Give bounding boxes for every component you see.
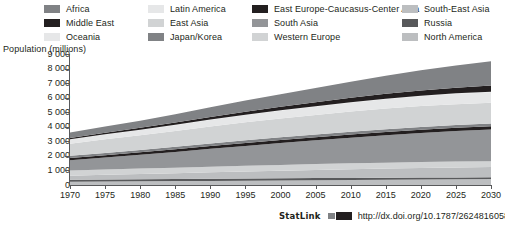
x-tick-label: 2005 xyxy=(306,190,326,200)
y-tick-label: 1 000 xyxy=(8,166,70,175)
legend-item[interactable]: Middle East xyxy=(44,16,114,29)
y-tick: 2 000 xyxy=(0,151,70,160)
x-tick-label: 2010 xyxy=(341,190,361,200)
x-tick-label: 1975 xyxy=(95,190,115,200)
statlink-row: StatLink http://dx.doi.org/10.1787/26248… xyxy=(279,209,505,222)
legend-item-label: East Europe-Caucasus-Center Asia xyxy=(274,4,419,14)
legend-item[interactable]: Latin America xyxy=(148,2,226,15)
legend-column-3: East Europe-Caucasus-Center AsiaSouth As… xyxy=(252,2,419,44)
y-axis-ticks: 01 0002 0003 0004 0005 0006 0007 0008 00… xyxy=(0,54,70,194)
legend-item[interactable]: South-East Asia xyxy=(402,2,490,15)
legend-swatch-icon xyxy=(44,33,60,41)
legend-item-label: South Asia xyxy=(274,18,318,28)
x-tick-label: 2000 xyxy=(270,190,290,200)
legend-swatch-icon xyxy=(402,33,418,41)
legend-swatch-icon xyxy=(402,5,418,13)
x-tick-label: 1990 xyxy=(200,190,220,200)
x-tick-mark xyxy=(105,185,106,189)
stacked-area-svg xyxy=(70,54,491,185)
x-tick-mark xyxy=(245,185,246,189)
y-tick: 6 000 xyxy=(0,93,70,102)
x-axis-ticks: 1970197519801985199019952000200520102015… xyxy=(0,185,505,209)
x-tick-label: 1970 xyxy=(60,190,80,200)
x-tick-mark xyxy=(70,185,71,189)
y-tick-label: 5 000 xyxy=(8,108,70,117)
legend-swatch-icon xyxy=(148,5,164,13)
legend-item-label: Oceania xyxy=(66,32,100,42)
x-tick-mark xyxy=(351,185,352,189)
y-tick-label: 3 000 xyxy=(8,137,70,146)
x-tick-mark xyxy=(281,185,282,189)
x-tick-label: 1980 xyxy=(130,190,150,200)
y-tick-label: 9 000 xyxy=(8,50,70,59)
y-tick: 7 000 xyxy=(0,79,70,88)
legend-column-1: AfricaMiddle EastOceania xyxy=(44,2,114,44)
legend-item-label: East Asia xyxy=(170,18,208,28)
legend-swatch-icon xyxy=(148,33,164,41)
legend-item-label: Japan/Korea xyxy=(170,32,222,42)
legend-swatch-icon xyxy=(402,19,418,27)
statlink-url[interactable]: http://dx.doi.org/10.1787/262481605856 xyxy=(358,211,505,221)
legend-item[interactable]: Russia xyxy=(402,16,490,29)
x-tick-mark xyxy=(140,185,141,189)
legend-item-label: Latin America xyxy=(170,4,226,14)
legend-item-label: North America xyxy=(424,32,482,42)
y-tick-label: 2 000 xyxy=(8,151,70,160)
legend-item-label: South-East Asia xyxy=(424,4,490,14)
legend-item-label: Africa xyxy=(66,4,90,14)
x-tick-mark xyxy=(386,185,387,189)
legend-item[interactable]: East Europe-Caucasus-Center Asia xyxy=(252,2,419,15)
y-tick-label: 7 000 xyxy=(8,79,70,88)
y-tick: 5 000 xyxy=(0,108,70,117)
y-tick: 8 000 xyxy=(0,64,70,73)
legend-item[interactable]: East Asia xyxy=(148,16,226,29)
x-tick-label: 1985 xyxy=(165,190,185,200)
legend-swatch-icon xyxy=(252,5,268,13)
chart-plot-region: 01 0002 0003 0004 0005 0006 0007 0008 00… xyxy=(0,54,505,199)
x-tick-mark xyxy=(175,185,176,189)
x-tick-mark xyxy=(316,185,317,189)
y-tick-label: 6 000 xyxy=(8,93,70,102)
y-tick: 1 000 xyxy=(0,166,70,175)
legend-swatch-icon xyxy=(252,19,268,27)
y-tick-label: 8 000 xyxy=(8,64,70,73)
legend-item-label: Western Europe xyxy=(274,32,340,42)
legend-item[interactable]: Japan/Korea xyxy=(148,30,226,43)
legend-item[interactable]: Oceania xyxy=(44,30,114,43)
x-tick-label: 2020 xyxy=(411,190,431,200)
legend-item[interactable]: South Asia xyxy=(252,16,419,29)
stacked-area-plot xyxy=(70,54,491,185)
legend-column-4: South-East AsiaRussiaNorth America xyxy=(402,2,490,44)
legend-swatch-icon xyxy=(44,5,60,13)
legend-item[interactable]: Western Europe xyxy=(252,30,419,43)
legend-item-label: Middle East xyxy=(66,18,114,28)
statlink-label: StatLink xyxy=(279,211,321,221)
y-tick: 3 000 xyxy=(0,137,70,146)
x-tick-mark xyxy=(421,185,422,189)
x-tick-mark xyxy=(456,185,457,189)
x-tick-label: 1995 xyxy=(235,190,255,200)
legend-item-label: Russia xyxy=(424,18,452,28)
x-tick-label: 2025 xyxy=(446,190,466,200)
x-tick-label: 2030 xyxy=(481,190,501,200)
legend-item[interactable]: North America xyxy=(402,30,490,43)
y-tick-label: 4 000 xyxy=(8,122,70,131)
y-tick: 4 000 xyxy=(0,122,70,131)
legend-item[interactable]: Africa xyxy=(44,2,114,15)
y-tick: 9 000 xyxy=(0,50,70,59)
x-tick-mark xyxy=(491,185,492,189)
legend-column-2: Latin AmericaEast AsiaJapan/Korea xyxy=(148,2,226,44)
x-tick-label: 2015 xyxy=(376,190,396,200)
x-tick-mark xyxy=(210,185,211,189)
legend-swatch-icon xyxy=(252,33,268,41)
legend-swatch-icon xyxy=(44,19,60,27)
statlink-barcode-icon xyxy=(328,212,352,220)
chart-legend: AfricaMiddle EastOceaniaLatin AmericaEas… xyxy=(0,2,505,44)
legend-swatch-icon xyxy=(148,19,164,27)
